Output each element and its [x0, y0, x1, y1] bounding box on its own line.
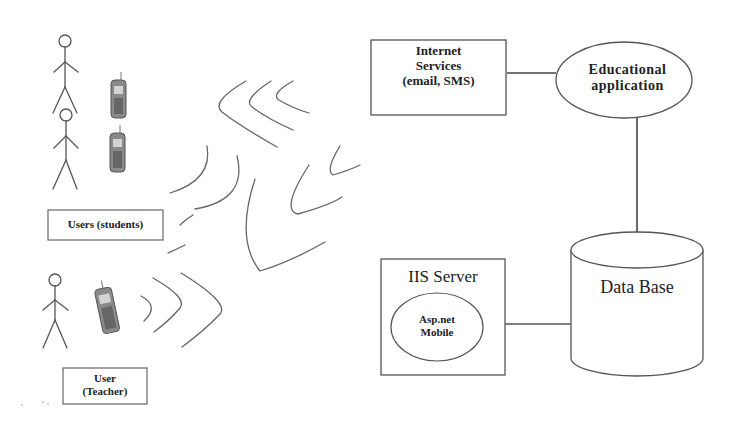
teacher-label-line2: (Teacher): [63, 385, 147, 398]
mobile-phone-icon: [111, 72, 126, 118]
teacher-label: User (Teacher): [63, 372, 147, 397]
teacher-label-line1: User: [63, 372, 147, 385]
iis-server-label: IIS Server: [381, 267, 505, 287]
wireless-waves-icon: [141, 81, 360, 347]
educational-application-line2: application: [560, 78, 695, 94]
stick-figure-icon: [43, 274, 68, 348]
aspnet-mobile-line1: Asp.net: [391, 313, 483, 326]
stick-figure-icon: [53, 35, 78, 113]
database-label: Data Base: [571, 277, 703, 298]
internet-services-line3: (email, SMS): [371, 74, 506, 89]
students-label: Users (students): [48, 218, 163, 231]
internet-services-line1: Internet: [371, 44, 506, 59]
database-cylinder: [571, 232, 703, 376]
educational-application-line1: Educational: [560, 62, 695, 78]
aspnet-mobile-line2: Mobile: [391, 326, 483, 339]
aspnet-mobile-label: Asp.net Mobile: [391, 313, 483, 338]
mobile-phone-icon: [110, 125, 125, 172]
mobile-phone-icon: [93, 279, 121, 334]
internet-services-line2: Services: [371, 59, 506, 74]
internet-services-label: Internet Services (email, SMS): [371, 44, 506, 89]
educational-application-label: Educational application: [560, 62, 695, 94]
stick-figure-icon: [53, 109, 78, 189]
